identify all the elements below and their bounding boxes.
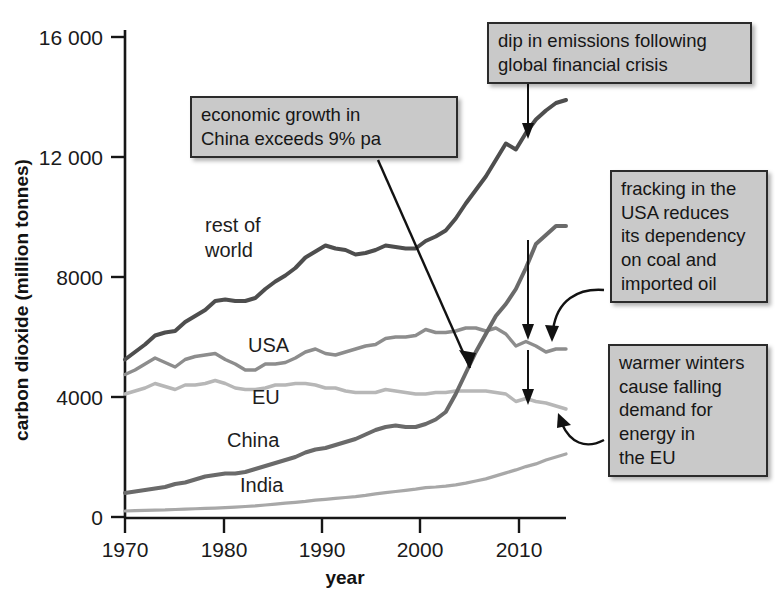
arrowhead-crisis-eu xyxy=(522,389,534,405)
series-label-rest-of-world: rest ofworld xyxy=(204,214,261,261)
x-ticks xyxy=(125,518,519,533)
arrowhead-warm-winters-eu xyxy=(557,413,571,428)
arrowhead-fracking-usa xyxy=(545,325,559,342)
x-tick-label-2010: 2010 xyxy=(496,538,543,561)
series-line-usa xyxy=(125,328,566,375)
annotation-financial-crisis: dip in emissions following global financ… xyxy=(487,22,752,84)
y-tick-label-0: 0 xyxy=(91,506,103,529)
x-tick-labels: 1970 1980 1990 2000 2010 xyxy=(102,538,543,561)
leader-fracking-usa xyxy=(553,290,604,330)
series-label-usa: USA xyxy=(248,334,290,356)
x-tick-label-1970: 1970 xyxy=(102,538,149,561)
x-tick-label-2000: 2000 xyxy=(397,538,444,561)
series-line-china xyxy=(125,226,566,493)
series-label-india: India xyxy=(240,474,284,496)
series-label-eu: EU xyxy=(252,386,280,408)
series-line-eu xyxy=(125,381,566,410)
series-lines xyxy=(125,100,566,511)
arrowhead-crisis-usa xyxy=(522,324,534,340)
y-ticks xyxy=(111,37,125,517)
x-tick-label-1980: 1980 xyxy=(201,538,248,561)
y-tick-labels: 16 000 12 000 8000 4000 0 xyxy=(39,26,103,529)
leader-warm-winters-eu xyxy=(562,424,604,444)
x-tick-label-1990: 1990 xyxy=(299,538,346,561)
annotation-usa-fracking: fracking in the USA reduces its dependen… xyxy=(610,170,768,303)
annotation-china-growth: economic growth in China exceeds 9% pa xyxy=(190,96,458,158)
y-tick-label-4000: 4000 xyxy=(56,386,103,409)
x-axis-title: year xyxy=(325,567,365,588)
y-tick-label-12000: 12 000 xyxy=(39,146,103,169)
y-tick-label-8000: 8000 xyxy=(56,266,103,289)
series-label-china: China xyxy=(227,429,280,451)
annotation-eu-warm-winters: warmer winters cause falling demand for … xyxy=(608,344,768,477)
co2-emissions-chart: 16 000 12 000 8000 4000 0 1970 1980 1990… xyxy=(0,0,775,600)
y-tick-label-16000: 16 000 xyxy=(39,26,103,49)
y-axis-title: carbon dioxide (million tonnes) xyxy=(11,159,32,441)
